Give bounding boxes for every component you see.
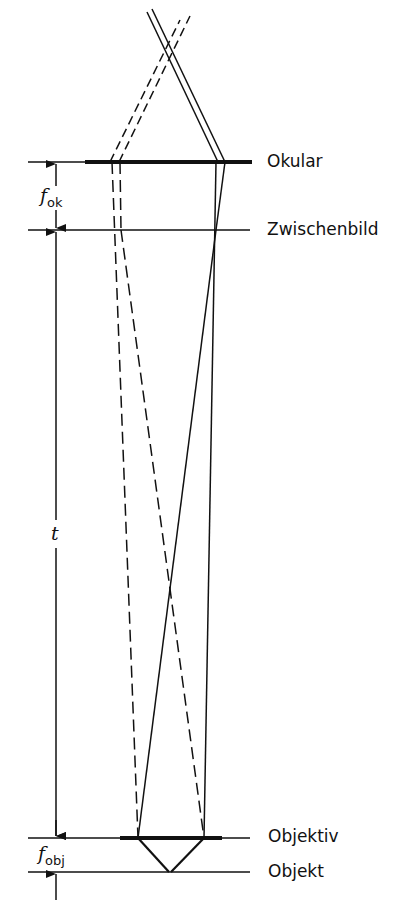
solid-ray-cross (138, 230, 216, 838)
dashed-ray-converge (120, 162, 121, 230)
microscope-ray-diagram (0, 0, 416, 920)
label-zwischenbild: Zwischenbild (267, 219, 379, 239)
solid-ray-vertical (204, 162, 216, 838)
solid-ray-exit-b (152, 9, 225, 162)
object-ray-right (171, 838, 204, 872)
object-ray-left (138, 838, 169, 872)
label-okular: Okular (267, 151, 323, 171)
symbol-f-ok: fok (40, 184, 63, 210)
dashed-ray-exit-b (119, 16, 190, 162)
solid-ray-converge (216, 162, 225, 230)
dashed-ray-cross (121, 230, 204, 838)
label-objekt: Objekt (268, 861, 324, 881)
symbol-t: t (51, 522, 59, 544)
dashed-ray-exit-a (110, 20, 180, 162)
dashed-ray-vertical (112, 162, 138, 838)
label-objektiv: Objektiv (268, 826, 339, 846)
symbol-f-obj: fobj (38, 842, 65, 868)
solid-ray-exit-a (147, 12, 218, 162)
